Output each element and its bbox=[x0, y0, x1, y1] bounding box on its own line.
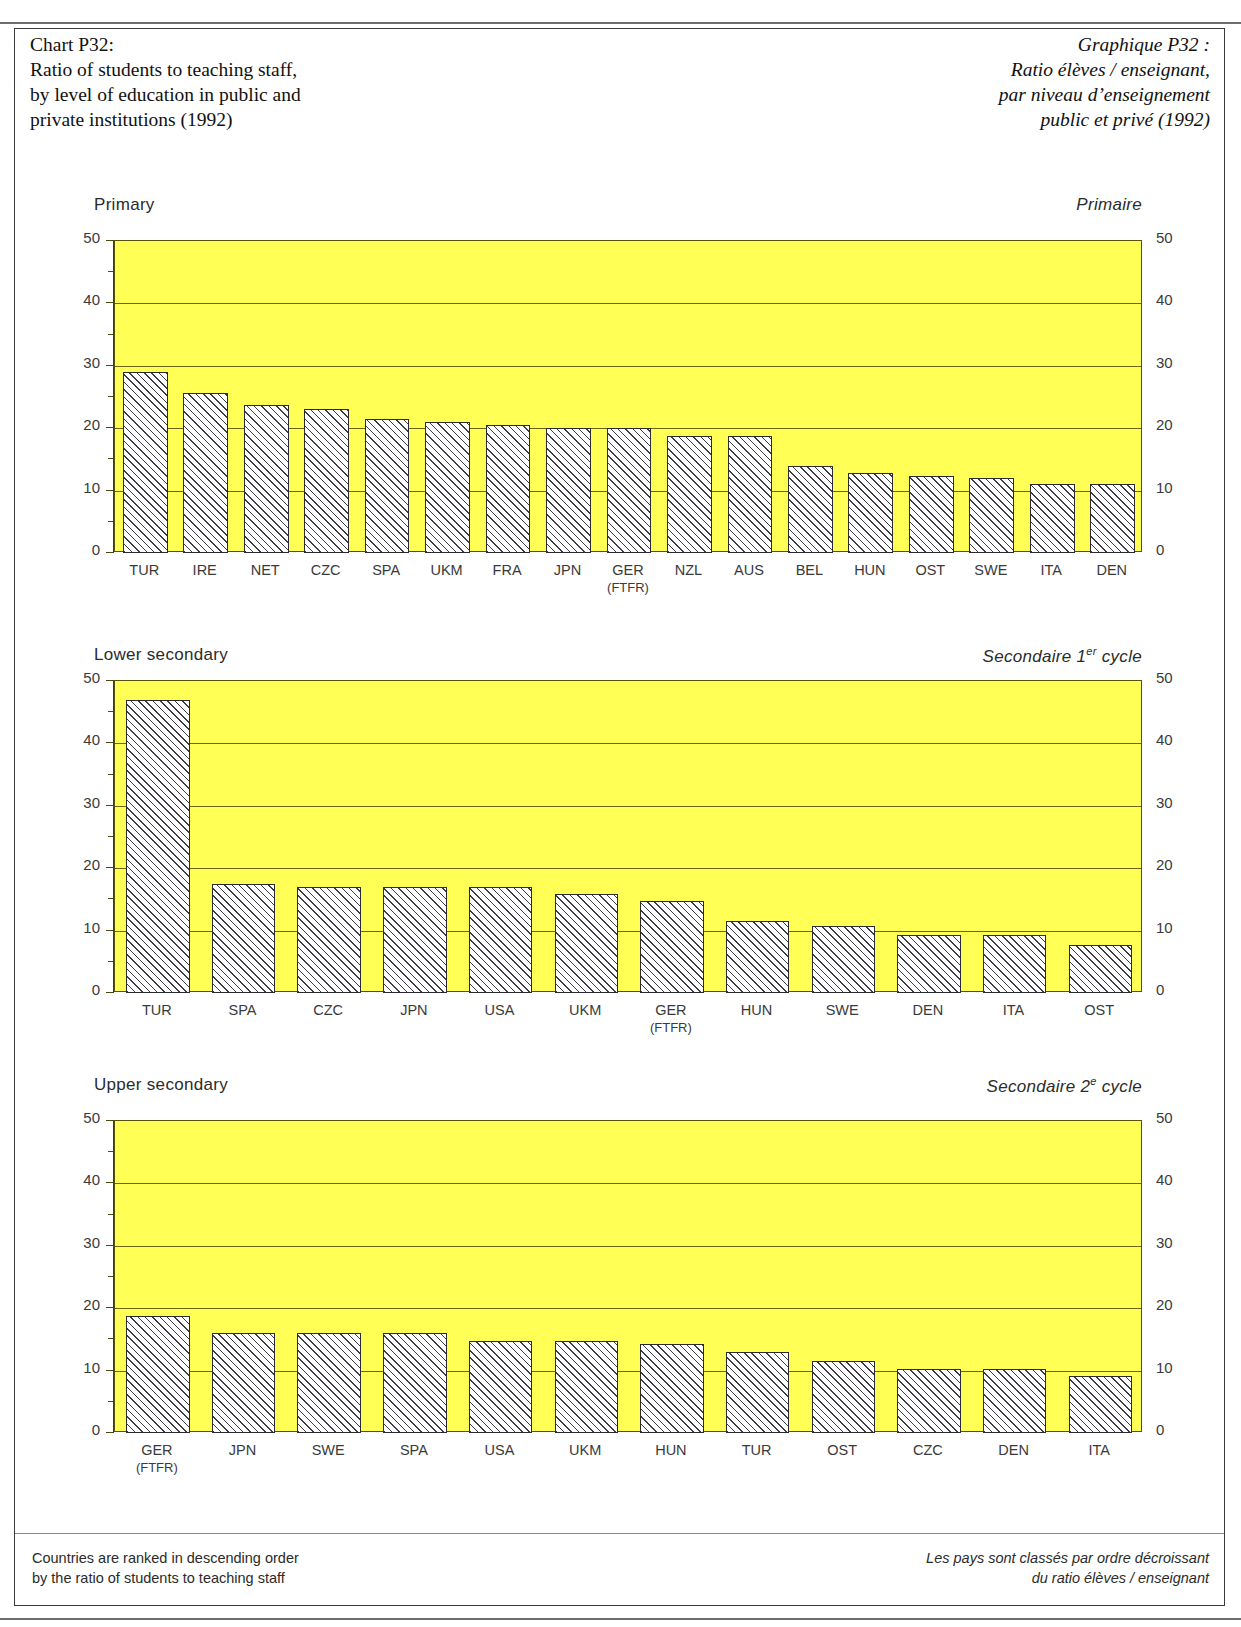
bar-cell bbox=[372, 681, 458, 993]
bar-cell bbox=[800, 681, 886, 993]
y-tick-label-left-30: 30 bbox=[66, 1238, 100, 1248]
x-label-jpn: JPN bbox=[200, 1442, 286, 1476]
bar-czc-3[interactable] bbox=[897, 1369, 960, 1433]
bar-ire-1[interactable] bbox=[183, 393, 228, 553]
chart-header: Chart P32: Ratio of students to teaching… bbox=[20, 32, 1220, 142]
y-axis-spine bbox=[113, 1120, 114, 1433]
bar-fra-1[interactable] bbox=[486, 425, 531, 553]
y-tick-label-left-40: 40 bbox=[66, 295, 100, 305]
bar-nzl-1[interactable] bbox=[667, 436, 712, 553]
bar-aus-1[interactable] bbox=[728, 436, 773, 553]
bar-tur-1[interactable] bbox=[123, 372, 168, 553]
chart-title-fr-line-1: Ratio élèves / enseignant, bbox=[690, 57, 1210, 82]
bar-tur-2[interactable] bbox=[126, 700, 189, 993]
panel-title-en-3: Upper secondary bbox=[94, 1075, 228, 1095]
footnote-fr-line-0: Les pays sont classés par ordre décroiss… bbox=[649, 1548, 1209, 1568]
bar-cell bbox=[458, 1121, 544, 1433]
bar-czc-2[interactable] bbox=[297, 887, 360, 993]
y-tick-label-right-50: 50 bbox=[1156, 673, 1190, 683]
bar-hun-1[interactable] bbox=[848, 473, 893, 553]
bar-cell bbox=[901, 241, 961, 553]
chart-panel-3: Upper secondarySecondaire 2e cycle001010… bbox=[20, 1075, 1220, 1502]
x-label-net: NET bbox=[235, 562, 295, 596]
x-label-aus: AUS bbox=[719, 562, 779, 596]
bar-cell bbox=[543, 1121, 629, 1433]
bar-cell bbox=[372, 1121, 458, 1433]
y-tick-label-left-20: 20 bbox=[66, 1300, 100, 1310]
x-label-usa: USA bbox=[457, 1002, 543, 1036]
bar-ita-1[interactable] bbox=[1030, 484, 1075, 553]
y-tick-label-left-30: 30 bbox=[66, 358, 100, 368]
bar-net-1[interactable] bbox=[244, 405, 289, 554]
bar-jpn-3[interactable] bbox=[212, 1333, 275, 1433]
bar-tur-3[interactable] bbox=[726, 1352, 789, 1433]
x-axis-labels: TURIRENETCZCSPAUKMFRAJPNGER(FTFR)NZLAUSB… bbox=[114, 562, 1142, 596]
x-label-ost: OST bbox=[1056, 1002, 1142, 1036]
x-label-ger: GER(FTFR) bbox=[114, 1442, 200, 1476]
y-tick-label-left-0: 0 bbox=[66, 545, 100, 555]
y-axis-spine bbox=[113, 680, 114, 993]
bar-swe-3[interactable] bbox=[297, 1333, 360, 1433]
x-label-swe: SWE bbox=[799, 1002, 885, 1036]
bar-den-3[interactable] bbox=[983, 1369, 1046, 1433]
bar-cell bbox=[886, 681, 972, 993]
bar-ger-1[interactable] bbox=[607, 428, 652, 553]
bar-spa-3[interactable] bbox=[383, 1333, 446, 1433]
bar-usa-3[interactable] bbox=[469, 1341, 532, 1433]
y-tick-label-right-30: 30 bbox=[1156, 358, 1190, 368]
bar-cell bbox=[715, 681, 801, 993]
bar-cell bbox=[236, 241, 296, 553]
bar-cell bbox=[201, 1121, 287, 1433]
bar-jpn-2[interactable] bbox=[383, 887, 446, 993]
bar-cell bbox=[1057, 681, 1143, 993]
bar-den-1[interactable] bbox=[1090, 484, 1135, 553]
x-label-ost: OST bbox=[799, 1442, 885, 1476]
bar-czc-1[interactable] bbox=[304, 409, 349, 553]
y-tick-label-left-30: 30 bbox=[66, 798, 100, 808]
chart-title-en-line-3: private institutions (1992) bbox=[30, 107, 550, 132]
bar-ost-1[interactable] bbox=[909, 476, 954, 553]
bar-ger-2[interactable] bbox=[640, 901, 703, 993]
bar-den-2[interactable] bbox=[897, 935, 960, 993]
y-tick-label-right-10: 10 bbox=[1156, 1363, 1190, 1373]
x-label-bel: BEL bbox=[779, 562, 839, 596]
x-label-ita: ITA bbox=[971, 1002, 1057, 1036]
x-label-ita: ITA bbox=[1056, 1442, 1142, 1476]
bar-jpn-1[interactable] bbox=[546, 428, 591, 553]
y-tick-label-right-20: 20 bbox=[1156, 860, 1190, 870]
x-label-hun: HUN bbox=[840, 562, 900, 596]
plot-area-3 bbox=[114, 1120, 1142, 1432]
footnote-divider bbox=[15, 1533, 1224, 1534]
bar-swe-1[interactable] bbox=[969, 478, 1014, 553]
bar-swe-2[interactable] bbox=[812, 926, 875, 993]
bar-ost-3[interactable] bbox=[812, 1361, 875, 1433]
panel-title-fr-3: Secondaire 2e cycle bbox=[987, 1075, 1142, 1097]
x-label-spa: SPA bbox=[200, 1002, 286, 1036]
chart-title-en-line-1: Ratio of students to teaching staff, bbox=[30, 57, 550, 82]
bar-ukm-3[interactable] bbox=[555, 1341, 618, 1433]
bar-cell bbox=[115, 241, 175, 553]
footnote-french: Les pays sont classés par ordre décroiss… bbox=[649, 1548, 1209, 1588]
bar-ost-2[interactable] bbox=[1069, 945, 1132, 993]
bar-ita-2[interactable] bbox=[983, 935, 1046, 993]
plot-area-2 bbox=[114, 680, 1142, 992]
bar-hun-2[interactable] bbox=[726, 921, 789, 993]
bar-series bbox=[115, 681, 1143, 993]
bar-cell bbox=[599, 241, 659, 553]
x-label-den: DEN bbox=[971, 1442, 1057, 1476]
bar-cell bbox=[543, 681, 629, 993]
bar-ita-3[interactable] bbox=[1069, 1376, 1132, 1433]
x-label-czc: CZC bbox=[885, 1442, 971, 1476]
bar-usa-2[interactable] bbox=[469, 887, 532, 993]
bar-bel-1[interactable] bbox=[788, 466, 833, 553]
x-label-jpn: JPN bbox=[537, 562, 597, 596]
y-axis-spine bbox=[113, 240, 114, 553]
x-label-swe: SWE bbox=[961, 562, 1021, 596]
bar-spa-1[interactable] bbox=[365, 419, 410, 553]
bar-spa-2[interactable] bbox=[212, 884, 275, 993]
bar-ger-3[interactable] bbox=[126, 1316, 189, 1433]
bar-ukm-1[interactable] bbox=[425, 422, 470, 553]
bar-hun-3[interactable] bbox=[640, 1344, 703, 1433]
bar-ukm-2[interactable] bbox=[555, 894, 618, 993]
y-tick-label-right-10: 10 bbox=[1156, 483, 1190, 493]
